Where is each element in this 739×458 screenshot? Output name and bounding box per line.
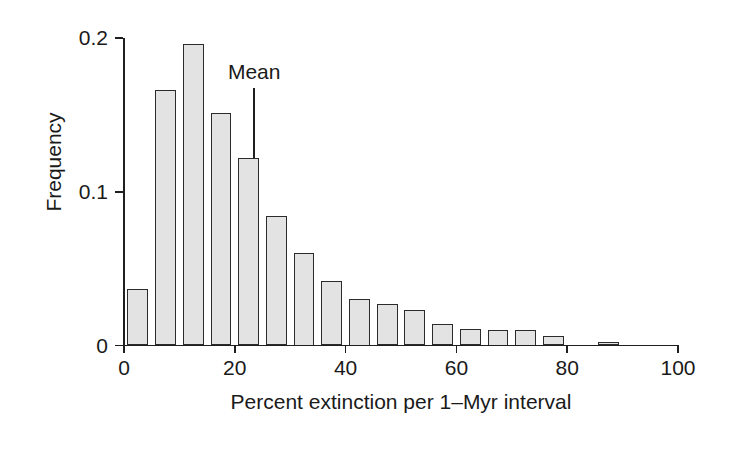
y-axis-tick-label: 0.2: [40, 27, 108, 48]
histogram-bar: [238, 158, 259, 346]
y-axis-tick: [115, 345, 123, 347]
histogram-bar: [515, 330, 536, 345]
x-axis-tick: [677, 345, 679, 353]
x-axis-tick-label: 60: [426, 357, 486, 378]
x-axis-line: [123, 345, 679, 347]
y-axis-line: [123, 38, 125, 346]
x-axis-tick-label: 40: [316, 357, 376, 378]
x-axis-tick-label: 20: [205, 357, 265, 378]
mean-annotation-label: Mean: [204, 60, 304, 84]
histogram-bar: [211, 113, 232, 345]
histogram-bar: [377, 304, 398, 346]
mean-annotation-line: [253, 88, 255, 158]
histogram-bar: [404, 310, 425, 345]
histogram-bar: [266, 216, 287, 345]
y-axis-tick: [115, 191, 123, 193]
histogram-figure: 00.10.2 020406080100 Frequency Percent e…: [0, 0, 739, 458]
histogram-bar: [155, 90, 176, 345]
x-axis-tick: [123, 345, 125, 353]
x-axis-tick: [345, 345, 347, 353]
x-axis-tick: [566, 345, 568, 353]
x-axis-tick-label: 80: [537, 357, 597, 378]
histogram-bar: [488, 330, 509, 345]
x-axis-tick-label: 100: [648, 357, 708, 378]
histogram-bar: [432, 324, 453, 346]
histogram-bar: [460, 329, 481, 346]
y-axis-label: Frequency: [42, 62, 66, 262]
histogram-bar: [294, 253, 315, 345]
plot-area: 00.10.2 020406080100 Frequency Percent e…: [0, 0, 739, 458]
x-axis-tick: [456, 345, 458, 353]
y-axis-tick: [115, 37, 123, 39]
x-axis-tick-label: 0: [94, 357, 154, 378]
histogram-bar: [349, 299, 370, 345]
histogram-bar: [321, 281, 342, 346]
histogram-bar: [127, 289, 148, 346]
y-axis-tick-label: 0: [40, 335, 108, 356]
histogram-bar: [183, 44, 204, 345]
x-axis-tick: [234, 345, 236, 353]
x-axis-label: Percent extinction per 1–Myr interval: [123, 390, 679, 414]
